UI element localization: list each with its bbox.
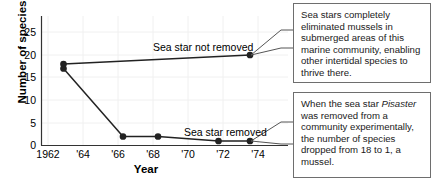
x-tick-1974: '74 — [238, 149, 278, 160]
x-tick-1966: '66 — [98, 149, 138, 160]
x-tick-1962: 1962 — [28, 149, 68, 160]
annotation-box-bottom: When the sea star Pisaster was removed f… — [293, 92, 431, 178]
y-tick-5: 5 — [14, 118, 36, 128]
x-tick-1964: '64 — [63, 149, 103, 160]
x-tick-1968: '68 — [133, 149, 173, 160]
chart-sea-star-species: Number of species 25 20 15 10 5 0 1962 '… — [0, 0, 292, 182]
y-tick-25: 25 — [14, 27, 36, 37]
y-tick-15: 15 — [14, 72, 36, 82]
annotation-bottom-text-before: When the sea star — [301, 98, 382, 109]
series-label-sea-star-not-removed: Sea star not removed — [153, 41, 253, 53]
series-label-sea-star-removed: Sea star removed — [184, 126, 267, 138]
annotation-box-top: Sea stars completely eliminated mussels … — [293, 3, 431, 83]
y-tick-10: 10 — [14, 95, 36, 105]
x-tick-1970: '70 — [168, 149, 208, 160]
x-axis-title: Year — [41, 163, 251, 175]
figure-sea-star-species: Number of species 25 20 15 10 5 0 1962 '… — [0, 0, 435, 182]
x-tick-1972: '72 — [203, 149, 243, 160]
annotation-bottom-species-name: Pisaster — [382, 98, 417, 109]
annotation-bottom-text-after: was removed from a community experimenta… — [301, 110, 414, 167]
annotation-top-text: Sea stars completely eliminated mussels … — [301, 9, 420, 78]
y-tick-20: 20 — [14, 50, 36, 60]
callout-leader-top — [251, 30, 293, 55]
